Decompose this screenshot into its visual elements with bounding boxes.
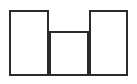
rectangle-right — [90, 11, 127, 75]
diagram-canvas — [0, 0, 137, 84]
three-rectangles-figure — [0, 0, 137, 84]
rectangle-middle — [50, 32, 88, 75]
rectangle-left — [10, 11, 48, 75]
